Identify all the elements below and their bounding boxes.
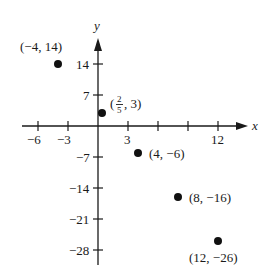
data-point xyxy=(54,60,62,68)
point-label: (4, −6) xyxy=(149,146,185,161)
x-axis-arrow-icon xyxy=(236,122,248,130)
point-label: (8, −16) xyxy=(189,190,231,205)
x-tick-label: −6 xyxy=(27,132,41,147)
point-label: , 3) xyxy=(124,96,141,111)
y-axis-label: y xyxy=(92,18,100,33)
point-label: ( xyxy=(110,96,114,111)
point-label: (−4, 14) xyxy=(20,39,62,54)
y-tick-label: −28 xyxy=(69,243,89,258)
y-tick-label: −14 xyxy=(69,181,90,196)
scatter-plot: x y −6 −3 3 12 14 7 −7 −14 −21 −28 (−4, … xyxy=(0,0,280,276)
y-tick-label: −21 xyxy=(69,212,89,227)
point-label-fraction-numerator: 2 xyxy=(117,94,122,104)
data-point xyxy=(214,237,222,245)
point-label-fraction-denominator: 5 xyxy=(117,105,122,115)
y-tick-label: 7 xyxy=(83,88,90,103)
data-point xyxy=(98,109,106,117)
data-point xyxy=(134,149,142,157)
point-label: (12, −26) xyxy=(189,250,238,265)
data-point xyxy=(174,193,182,201)
y-axis-arrow-icon xyxy=(94,38,102,51)
y-tick-label: 14 xyxy=(76,57,90,72)
x-tick-label: 3 xyxy=(124,132,131,147)
x-tick-label: −3 xyxy=(57,132,71,147)
x-tick-label: 12 xyxy=(211,132,224,147)
y-tick-label: −7 xyxy=(76,150,90,165)
x-axis-label: x xyxy=(251,118,258,133)
